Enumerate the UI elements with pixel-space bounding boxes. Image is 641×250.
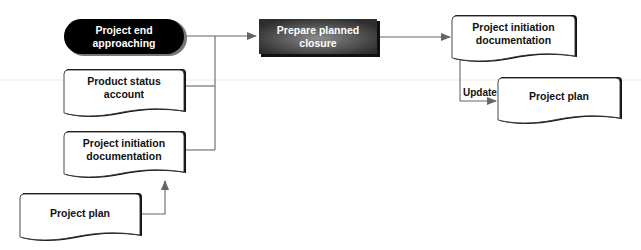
label-project-initiation-documentation-output: Project initiation documentation (452, 16, 575, 51)
connectors (142, 36, 496, 214)
label-product-status-account: Product status account (64, 70, 184, 106)
label-project-plan-input: Project plan (20, 194, 140, 232)
label-project-initiation-documentation-input: Project initiation documentation (64, 132, 184, 168)
label-project-end-approaching: Project end approaching (64, 19, 184, 54)
label-prepare-planned-closure: Prepare planned closure (259, 19, 377, 54)
label-project-plan-output: Project plan (498, 78, 620, 114)
edge-label-update: Update (463, 87, 497, 98)
